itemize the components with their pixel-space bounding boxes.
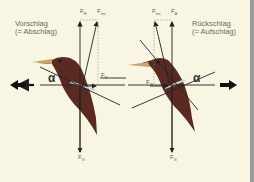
left-label-fh: FH [80,8,87,16]
left-label-fg: FG [78,154,85,162]
right-thrust-arrow-icon [220,83,230,87]
right-label-fa: FA [171,8,178,16]
right-diagonal-line [140,40,198,110]
left-force-lines [40,22,126,152]
left-label-fres: Fres [97,8,106,16]
left-resultant-arrow [82,22,97,88]
left-bird [32,57,97,135]
right-label-fg: FG [170,154,177,162]
force-diagram: FH Fres FN FG α Fres FA FW FG α [0,0,254,182]
right-angle-alpha: α [193,71,201,85]
left-angle-alpha: α [48,71,56,85]
right-label-fres: Fres [152,8,161,16]
